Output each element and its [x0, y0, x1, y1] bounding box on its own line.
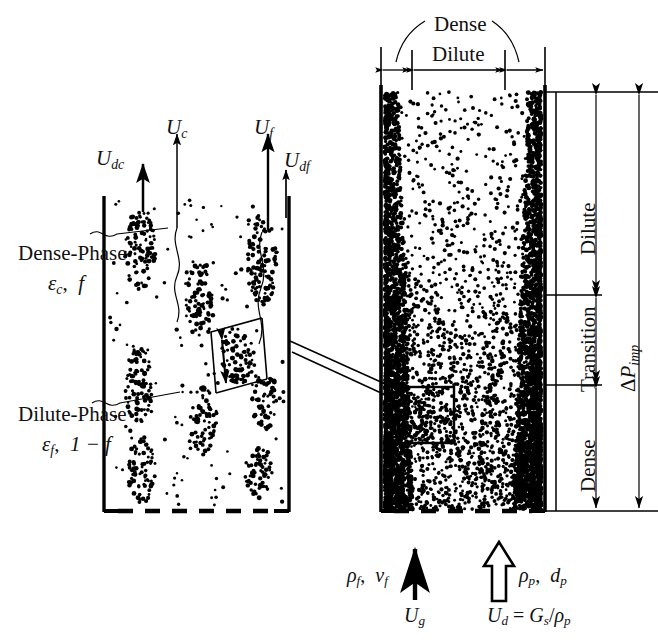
dilute-phase-label: Dilute-Phase — [18, 404, 126, 425]
pressure-drop-label: ΔPimp — [618, 345, 641, 392]
velocity-label-u-c: Uc — [166, 117, 187, 140]
axial-zone-label-transition: Transition — [578, 306, 599, 392]
dense-phase-formula: εc, f — [48, 273, 84, 296]
axial-zone-label-dilute: Dilute — [578, 203, 599, 256]
particle-field-layer — [0, 0, 658, 642]
velocity-label-u-f: Uf — [254, 117, 273, 140]
gas-velocity-label: Ug — [404, 605, 425, 628]
dense-top-dimension-label: Dense — [434, 14, 486, 35]
solids-velocity-equation: Ud = Gs/ρp — [487, 605, 571, 628]
dilute-top-dimension-label: Dilute — [432, 44, 485, 65]
dilute-phase-formula: εf, 1 − f — [42, 434, 111, 457]
dense-phase-label: Dense-Phase — [18, 243, 126, 264]
gas-properties-label: ρf, νf — [347, 565, 388, 588]
velocity-label-u-df: Udf — [284, 150, 310, 173]
axial-zone-label-dense: Dense — [578, 440, 599, 492]
velocity-label-u-dc: Udc — [96, 148, 124, 171]
solids-properties-label: ρp, dp — [519, 565, 567, 588]
figure-canvas: Udc Uc Uf Udf Dense-Phase εc, f Dilute-P… — [0, 0, 658, 642]
